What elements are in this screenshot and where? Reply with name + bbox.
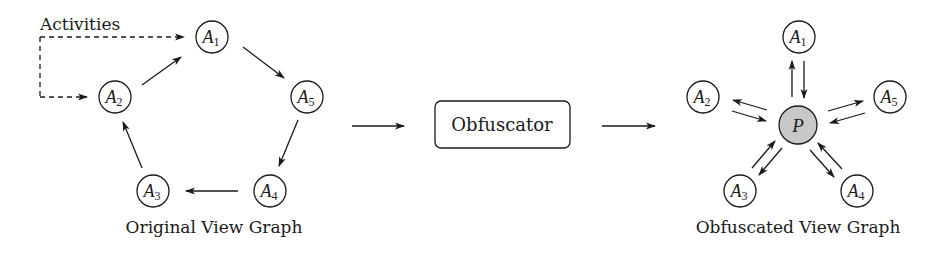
obfuscator-stage: Obfuscator — [352, 101, 655, 148]
edge-a1-to-a5 — [243, 47, 284, 78]
node-a3: A3 — [724, 175, 756, 207]
original-view-graph: Activities A1 A2 A3 A4 A5 — [39, 14, 323, 237]
obfuscated-view-graph: P A1 A2 A3 A4 A5 Obfuscated View Graph — [687, 21, 906, 237]
edge-a2-to-a1 — [142, 57, 181, 85]
edge-a5-to-a4 — [279, 120, 298, 166]
edge-a3-to-p — [752, 141, 775, 168]
edge-p-to-a5 — [828, 101, 863, 111]
node-a2: A2 — [687, 81, 719, 113]
edge-a5-to-p — [830, 113, 865, 123]
edge-a3-to-a2 — [123, 122, 142, 168]
node-a4: A4 — [254, 175, 286, 207]
node-a3: A3 — [137, 175, 169, 207]
node-a5: A5 — [874, 81, 906, 113]
node-a1: A1 — [196, 21, 228, 53]
node-a5: A5 — [291, 81, 323, 113]
obfuscated-graph-caption: Obfuscated View Graph — [696, 217, 901, 237]
obfuscator-label: Obfuscator — [451, 114, 553, 135]
node-a2: A2 — [99, 81, 131, 113]
node-a4: A4 — [841, 175, 873, 207]
edge-p-to-a3 — [759, 148, 782, 175]
activities-label: Activities — [39, 14, 120, 34]
node-a1: A1 — [783, 21, 815, 53]
edge-a2-to-p — [732, 111, 766, 121]
proxy-node-p: P — [779, 106, 817, 144]
edge-p-to-a2 — [733, 100, 767, 110]
view-graph-obfuscation-diagram: Activities A1 A2 A3 A4 A5 — [0, 0, 949, 253]
original-graph-caption: Original View Graph — [126, 217, 303, 237]
edge-p-to-a4 — [810, 150, 834, 177]
edge-a4-to-p — [818, 143, 842, 169]
proxy-label: P — [791, 115, 804, 136]
